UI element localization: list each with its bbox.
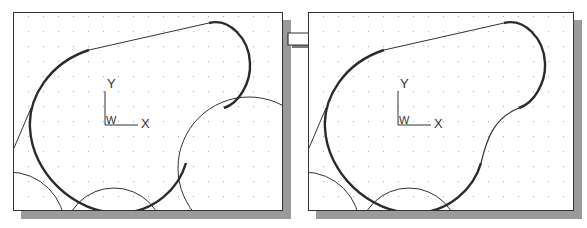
after-drawing-canvas: Y W X xyxy=(309,13,574,211)
ucs-y-label: Y xyxy=(107,76,116,91)
ucs-origin-label: W xyxy=(106,114,117,126)
grid-dots xyxy=(14,13,283,211)
ucs-x-label: X xyxy=(141,116,150,131)
ucs-origin-label: W xyxy=(399,114,410,126)
before-drawing-viewport[interactable]: Y W X xyxy=(13,12,283,211)
after-drawing-viewport[interactable]: Y W X xyxy=(308,12,574,211)
ucs-x-label: X xyxy=(434,116,443,131)
ucs-y-label: Y xyxy=(400,76,409,91)
before-drawing-canvas: Y W X xyxy=(14,13,283,211)
